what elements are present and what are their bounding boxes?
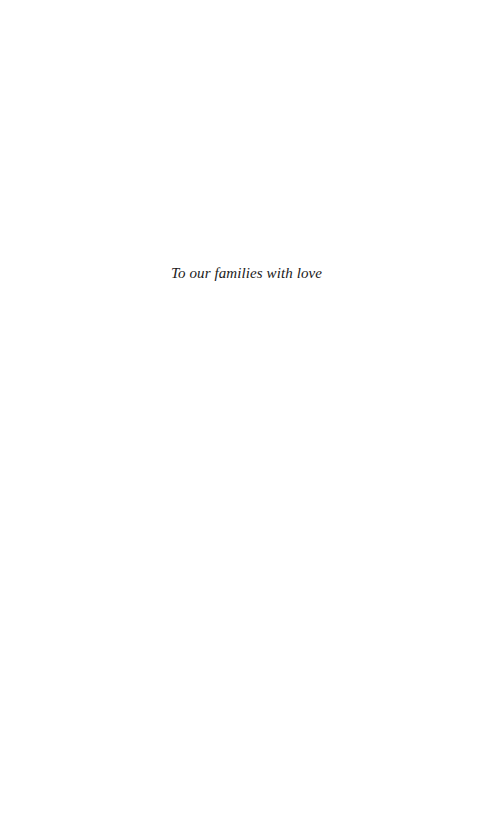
dedication: To our families with love (0, 262, 483, 284)
document-page: To our families with love (0, 0, 483, 817)
dedication-text: To our families with love (171, 262, 322, 284)
